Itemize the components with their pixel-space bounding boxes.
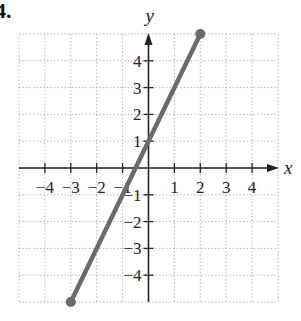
y-tick-label: −4 (123, 266, 142, 285)
x-tick-label: −2 (88, 178, 106, 197)
y-tick-label: −2 (123, 213, 141, 232)
y-axis-arrow-icon (145, 33, 153, 45)
x-axis-label: x (283, 157, 293, 178)
x-tick-label: −4 (36, 178, 55, 197)
endpoint-dot (195, 29, 205, 39)
y-axis-label: y (144, 5, 155, 26)
x-axis-arrow-icon (267, 164, 279, 172)
x-tick-label: 3 (222, 178, 231, 197)
y-tick-label: 3 (133, 79, 142, 98)
y-tick-label: 4 (133, 52, 142, 71)
x-tick-label: 1 (170, 178, 179, 197)
coordinate-plane: −4−3−2−11234−4−3−2−11234xy (0, 0, 301, 321)
y-tick-label: −3 (123, 239, 141, 258)
y-tick-label: 1 (133, 132, 142, 151)
x-tick-label: 4 (248, 178, 257, 197)
endpoint-dot (66, 297, 76, 307)
y-tick-label: 2 (133, 105, 142, 124)
x-tick-label: 2 (196, 178, 205, 197)
x-tick-label: −3 (62, 178, 80, 197)
